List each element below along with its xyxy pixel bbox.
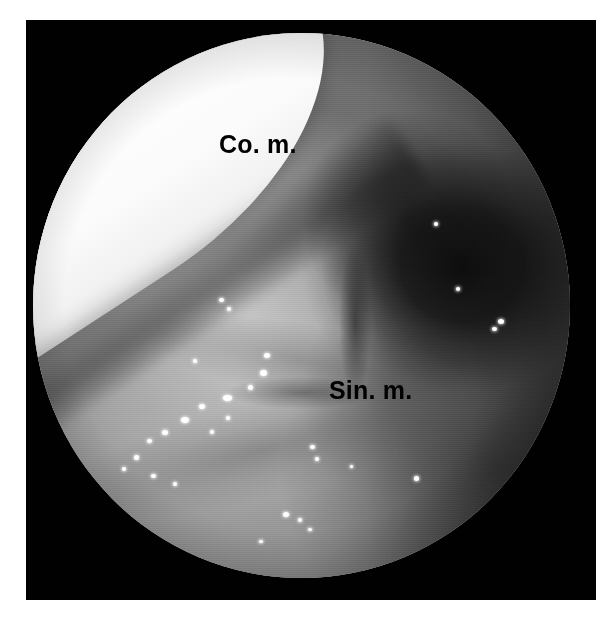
- specular-highlight: [248, 385, 253, 390]
- specular-highlight: [350, 465, 353, 468]
- specular-highlight: [199, 404, 205, 409]
- specular-highlight: [456, 287, 460, 291]
- specular-highlight: [193, 359, 197, 363]
- specular-highlight: [173, 482, 177, 486]
- specular-highlight: [226, 416, 230, 420]
- specular-highlight: [122, 467, 126, 471]
- specular-highlight: [315, 457, 319, 461]
- specular-highlight: [134, 455, 139, 460]
- specular-highlight: [283, 512, 289, 517]
- annotation-label-sinus-maxillaris: Sin. m.: [329, 378, 412, 403]
- specular-highlight: [151, 474, 156, 478]
- annotation-label-concha-media: Co. m.: [219, 132, 297, 157]
- specular-highlight: [308, 528, 312, 531]
- specular-highlight: [162, 430, 168, 435]
- concha-edge-shadow: [33, 33, 433, 501]
- endoscopic-field-of-view: [33, 33, 570, 578]
- specular-highlight: [264, 353, 270, 358]
- specular-highlight: [147, 439, 152, 443]
- specular-highlight: [260, 370, 267, 376]
- specular-highlight: [310, 445, 315, 449]
- specular-highlight: [492, 327, 497, 331]
- caption-sliver: [60, 611, 580, 619]
- specular-highlight: [223, 395, 232, 401]
- specular-highlight: [181, 417, 189, 423]
- specular-highlight: [298, 518, 302, 522]
- specular-highlight: [414, 476, 419, 481]
- specular-highlight: [498, 319, 504, 324]
- specular-highlight: [259, 540, 263, 543]
- specular-highlight: [210, 430, 214, 434]
- figure-root: Co. m. Sin. m.: [0, 0, 616, 619]
- photo-frame: Co. m. Sin. m.: [26, 20, 596, 600]
- specular-highlight: [434, 222, 438, 226]
